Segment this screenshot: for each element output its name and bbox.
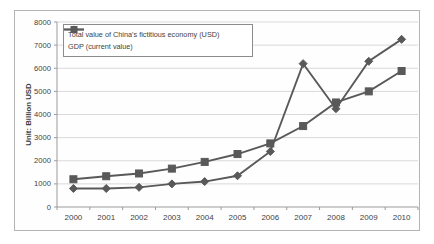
y-axis-title: Unit: Billion USD	[24, 83, 33, 146]
data-point-square	[365, 88, 372, 95]
x-tick-label: 2002	[130, 213, 148, 222]
legend-label-fictitious-economy: Total value of China's fictitious econom…	[68, 30, 219, 39]
x-tick-label: 2006	[261, 213, 279, 222]
x-tick-label: 2005	[229, 213, 247, 222]
legend: Total value of China's fictitious econom…	[63, 24, 253, 57]
x-tick-label: 2007	[294, 213, 312, 222]
data-point-square	[332, 99, 339, 106]
y-tick-label: 0	[47, 203, 51, 212]
y-tick-label: 8000	[34, 18, 51, 27]
data-point-diamond	[135, 183, 143, 191]
data-point-square	[168, 165, 175, 172]
data-point-square	[267, 140, 274, 147]
data-point-square	[234, 151, 241, 158]
series-line-1	[73, 71, 401, 179]
y-tick-label: 3000	[34, 133, 51, 142]
legend-item-gdp: GDP (current value)	[68, 42, 248, 51]
y-tick-label: 4000	[34, 110, 51, 119]
legend-item-fictitious-economy: Total value of China's fictitious econom…	[68, 30, 248, 39]
data-point-diamond	[69, 185, 77, 193]
data-point-square	[201, 158, 208, 165]
x-tick-label: 2001	[97, 213, 115, 222]
data-point-square	[300, 123, 307, 130]
x-tick-label: 2000	[65, 213, 83, 222]
data-point-diamond	[102, 185, 110, 193]
x-tick-label: 2004	[196, 213, 214, 222]
x-tick-label: 2010	[393, 213, 411, 222]
y-tick-label: 5000	[34, 87, 51, 96]
y-tick-label: 7000	[34, 41, 51, 50]
data-point-diamond	[168, 180, 176, 188]
data-point-square	[70, 176, 77, 183]
x-tick-label: 2008	[327, 213, 345, 222]
square-marker-icon	[64, 25, 84, 34]
x-tick-label: 2003	[163, 213, 181, 222]
y-tick-label: 2000	[34, 156, 51, 165]
x-tick-label: 2009	[360, 213, 378, 222]
y-tick-label: 1000	[34, 179, 51, 188]
series-line-0	[73, 39, 401, 188]
data-point-square	[398, 68, 405, 75]
y-tick-label: 6000	[34, 64, 51, 73]
data-point-square	[136, 170, 143, 177]
legend-label-gdp: GDP (current value)	[68, 42, 133, 51]
data-point-square	[103, 173, 110, 180]
